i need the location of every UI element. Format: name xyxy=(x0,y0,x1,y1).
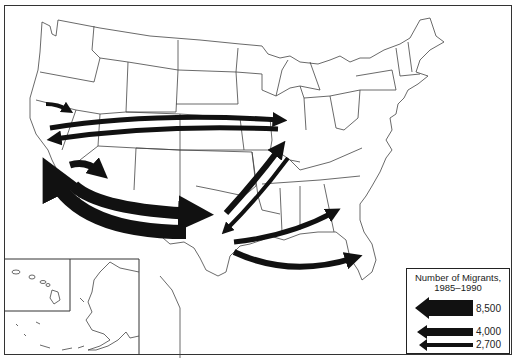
arrow-ca-nv xyxy=(46,104,68,110)
legend-label-thin: 2,700 xyxy=(476,339,501,350)
flow-arrows xyxy=(46,104,354,267)
arrow-tx-ga xyxy=(234,212,334,242)
arrow-tx-fl xyxy=(234,252,354,267)
legend-subtitle: 1985–1990 xyxy=(407,283,509,293)
arrow-ca-az xyxy=(70,164,100,172)
legend-item-thick: 8,500 xyxy=(411,299,507,315)
hawaii-islands xyxy=(12,270,60,304)
thin-arrow-icon xyxy=(419,339,479,351)
legend-label-thick: 8,500 xyxy=(476,303,501,314)
thick-arrow-icon xyxy=(415,297,475,319)
medium-arrow-icon xyxy=(417,325,477,339)
legend-item-thin: 2,700 xyxy=(411,340,507,356)
alaska xyxy=(16,262,180,358)
legend: Number of Migrants, 1985–1990 8,500 4,00… xyxy=(406,268,510,354)
legend-label-medium: 4,000 xyxy=(476,326,501,337)
arrow-il-ca xyxy=(54,128,278,139)
